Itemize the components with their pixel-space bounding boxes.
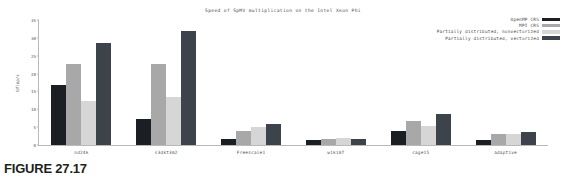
bar <box>251 127 266 145</box>
bar <box>476 140 491 145</box>
bar <box>321 139 336 145</box>
bar-groups: nd24ks3dkt3m2Freescale1wiki07cage15adapt… <box>39 20 548 145</box>
bar <box>406 121 421 145</box>
bar <box>351 139 366 145</box>
bar <box>336 138 351 145</box>
bar <box>436 114 451 145</box>
chart-title: Speed of SpMV multiplication on the Inte… <box>0 8 566 13</box>
bar <box>491 134 506 145</box>
figure-caption: FIGURE 27.17 <box>4 161 87 176</box>
bar <box>521 132 536 145</box>
bar <box>266 124 281 145</box>
x-axis-tick-label: s3dkt3m2 <box>155 150 178 155</box>
bar <box>306 140 321 145</box>
x-axis-tick-label: nd24k <box>74 150 88 155</box>
bar <box>506 134 521 145</box>
x-axis-tick-label: Freescale1 <box>237 150 265 155</box>
bar <box>391 131 406 145</box>
bar-group: Freescale1 <box>209 20 294 145</box>
bar-group: adaptive <box>463 20 548 145</box>
x-axis-tick-label: wiki07 <box>327 150 344 155</box>
bar <box>51 85 66 145</box>
x-axis-tick-label: adaptive <box>494 150 517 155</box>
x-axis-tick-label: cage15 <box>412 150 429 155</box>
bar <box>81 101 96 145</box>
chart-area: Speed of SpMV multiplication on the Inte… <box>0 0 566 160</box>
bar <box>136 119 151 145</box>
bar <box>221 139 236 145</box>
bar-group: wiki07 <box>293 20 378 145</box>
bar <box>96 43 111 145</box>
bar <box>151 64 166 145</box>
y-axis-label: Gflop/s <box>15 74 20 92</box>
bar <box>181 31 196 145</box>
bar-group: cage15 <box>378 20 463 145</box>
figure-container: Speed of SpMV multiplication on the Inte… <box>0 0 566 181</box>
bar <box>66 64 81 145</box>
bar <box>166 97 181 145</box>
bar <box>421 126 436 145</box>
bar-group: nd24k <box>39 20 124 145</box>
plot-frame: Gflop/s 05101520253035 nd24ks3dkt3m2Free… <box>38 20 548 146</box>
bar <box>236 131 251 145</box>
bar-group: s3dkt3m2 <box>124 20 209 145</box>
